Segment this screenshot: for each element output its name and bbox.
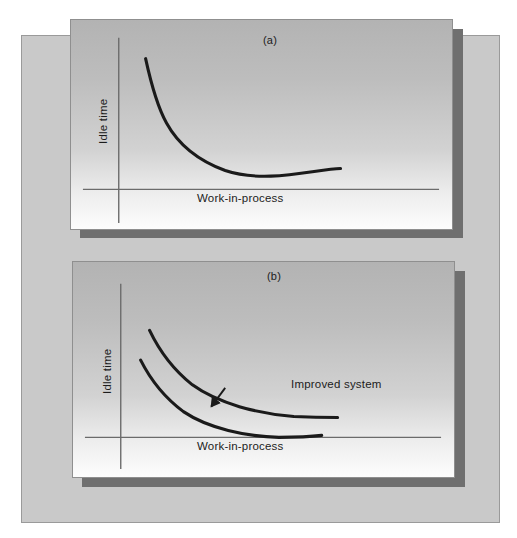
panel-caption-a: (a) (263, 34, 277, 46)
figure-page: (a) Idle time Work-in-process (b) (0, 0, 517, 538)
panel-caption-b: (b) (267, 270, 281, 282)
y-axis-label-b: Idle time (101, 349, 113, 394)
curve-idle-time-a (146, 59, 341, 177)
panel-b-shadow-right (455, 271, 465, 487)
improved-system-annotation: Improved system (291, 378, 382, 390)
x-axis-label-a: Work-in-process (197, 192, 284, 204)
panel-b-shadow-bottom (82, 477, 465, 487)
curve-original-system-b (150, 330, 338, 417)
chart-panel-b: (b) Idle time Work-in-process Improved s… (72, 261, 455, 478)
panel-a-shadow-right (453, 29, 463, 238)
y-axis-label-a: Idle time (97, 99, 109, 144)
panel-a-shadow-bottom (80, 229, 463, 238)
x-axis-label-b: Work-in-process (197, 440, 284, 452)
chart-panel-a: (a) Idle time Work-in-process (70, 19, 453, 230)
curve-improved-system-b (141, 360, 322, 437)
